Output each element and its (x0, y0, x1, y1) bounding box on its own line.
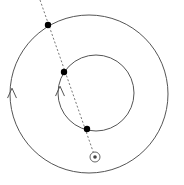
sun-symbol-icon (90, 152, 100, 162)
outer-body-point (45, 22, 51, 28)
orbit-diagram-canvas (0, 0, 184, 185)
inner-orbit-direction-arrow-icon (56, 86, 65, 96)
outer-orbit-direction-arrow-icon (8, 88, 17, 98)
orbital-diagram (0, 0, 184, 185)
inner-orbit-circle (58, 55, 134, 131)
inner-upper-point (61, 69, 67, 75)
inner-lower-point (84, 126, 90, 132)
outer-orbit-circle (10, 15, 168, 173)
